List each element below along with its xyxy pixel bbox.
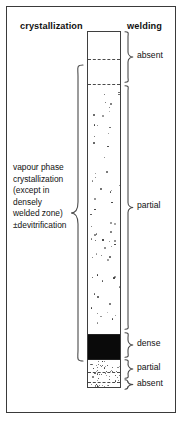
stipple-dot (106, 171, 108, 173)
stipple-dot (92, 257, 93, 258)
stipple-dot (102, 280, 103, 281)
welding-brace (124, 332, 134, 358)
annotation-line: vapour phase (13, 162, 71, 174)
stipple-dot (93, 368, 94, 369)
stipple-dot (100, 316, 102, 318)
stipple-dot (98, 386, 99, 387)
stipple-dot (92, 277, 93, 278)
stipple-dot (90, 214, 92, 216)
stipple-dot (91, 238, 92, 239)
welding-zone-label: absent (137, 51, 163, 60)
stipple-dot (102, 387, 103, 388)
stipple-dot (112, 367, 113, 368)
stipple-dot (114, 240, 116, 242)
welding-zone-label: dense (137, 339, 160, 348)
stipple-dot (107, 259, 109, 261)
stipple-dot (105, 373, 106, 374)
stipple-dot (118, 380, 119, 381)
stipple-dot (110, 222, 112, 224)
annotation-line: (except in (13, 185, 71, 197)
stipple-dot (114, 276, 116, 278)
stipple-dot (115, 315, 116, 316)
stipple-dot (108, 133, 109, 134)
stipple-dot (96, 253, 98, 255)
stipple-dot (94, 209, 96, 211)
stipple-dot (104, 157, 105, 158)
welding-brace (124, 85, 134, 330)
welding-zone-label: absent (137, 379, 163, 388)
stipple-dot (102, 365, 103, 366)
stipple-dot (90, 364, 91, 365)
stipple-dot (97, 374, 98, 375)
annotation-line: ±devitrification (13, 220, 71, 232)
welding-brace (124, 359, 134, 379)
welding-brace (124, 31, 134, 83)
stipple-dot (114, 223, 116, 225)
stipple-dot (109, 376, 110, 377)
annotation-line: crystallization (13, 174, 71, 186)
annotation-line: densely (13, 197, 71, 209)
stipple-dot (97, 313, 98, 314)
stipple-dot (108, 385, 109, 386)
stipple-dot (114, 244, 116, 246)
stipple-dot (93, 114, 95, 116)
welding-zone-label: partial (137, 363, 160, 372)
stipple-dot (102, 239, 104, 241)
stipple-dot (109, 379, 110, 380)
stipple-dot (101, 374, 102, 375)
stipple-dot (95, 240, 96, 241)
stipple-dot (105, 102, 106, 103)
stipple-dot (104, 94, 105, 95)
stipple-dot (95, 177, 96, 178)
stipple-dot (110, 103, 112, 105)
stipple-dot (95, 173, 96, 174)
stipple-dot (119, 375, 120, 376)
stipple-dot (100, 188, 102, 190)
stipple-dot (91, 226, 92, 227)
stipple-dot (104, 361, 105, 362)
stipple-dot (98, 361, 99, 362)
stipple-dot (112, 318, 113, 319)
stipple-dot (119, 366, 120, 367)
contact-solid (88, 334, 120, 335)
annotation-line: welded zone) (13, 208, 71, 220)
stipple-dot (97, 125, 98, 126)
stipple-dot (115, 380, 116, 381)
stipple-dot (110, 231, 112, 233)
stipple-dot (94, 373, 95, 374)
stipple-dot (92, 180, 94, 182)
stipple-dot (96, 365, 97, 366)
stipple-dot (115, 375, 116, 376)
stipple-dot (117, 367, 118, 368)
stipple-dot (104, 247, 106, 249)
welding-brace (124, 379, 134, 390)
stipple-dot (109, 111, 110, 112)
stipple-dot (111, 388, 112, 389)
stipple-dot (109, 303, 111, 305)
stipple-dot (96, 233, 97, 234)
stipple-dot (118, 94, 119, 95)
header-welding: welding (127, 21, 162, 31)
stipple-dot (109, 241, 110, 242)
stipple-dot (94, 124, 95, 125)
stipple-dot (102, 361, 103, 362)
stipple-dot (93, 142, 95, 144)
stipple-dot (99, 374, 100, 375)
contact-dashed (88, 382, 120, 383)
stipple-dot (109, 127, 111, 129)
stipple-dot (106, 371, 107, 372)
stipple-dot (95, 386, 96, 387)
stipple-dot (92, 376, 93, 377)
stipple-dot (97, 367, 98, 368)
stipple-dot (91, 307, 93, 309)
stipple-dot (111, 202, 113, 204)
stipple-dot (99, 385, 100, 386)
stipple-dot (111, 190, 112, 191)
stipple-dot (116, 371, 117, 372)
stipple-dot (104, 367, 105, 368)
stipple-dot (110, 191, 112, 193)
stipple-dot (110, 371, 111, 372)
contact-dashed (88, 84, 120, 85)
welding-zone-label: partial (137, 201, 160, 210)
stratigraphic-column (87, 31, 121, 388)
